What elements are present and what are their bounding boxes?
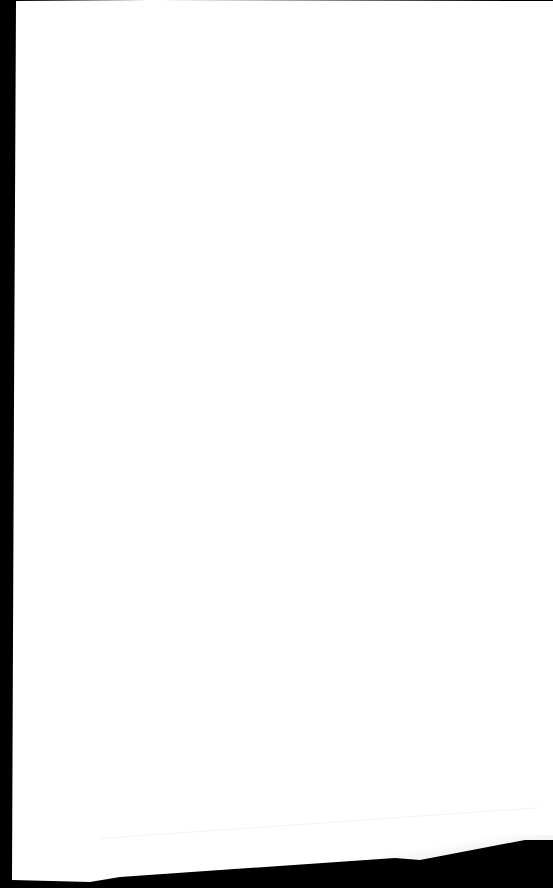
blank-paper-sheet — [0, 0, 553, 888]
